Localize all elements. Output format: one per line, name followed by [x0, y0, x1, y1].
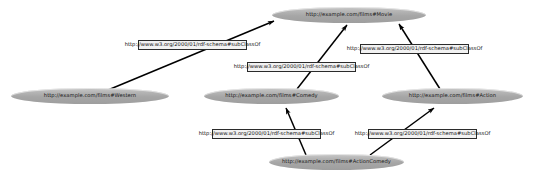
rdf-graph-diagram: http://example.com/films#Movie http://ex… — [0, 0, 534, 176]
edge-label-western-to-movie[interactable]: http://www.w3.org/2000/01/rdf-schema#sub… — [138, 40, 247, 50]
edge-comedy-to-movie — [297, 25, 347, 89]
edge-action-to-movie — [399, 24, 440, 89]
node-actioncomedy-label: http://example.com/films#ActionComedy — [282, 159, 391, 164]
edge-label-action-to-movie-text: http://www.w3.org/2000/01/rdf-schema#sub… — [347, 46, 483, 51]
edge-label-actioncomedy-to-comedy-text: http://www.w3.org/2000/01/rdf-schema#sub… — [199, 131, 335, 136]
node-comedy[interactable]: http://example.com/films#Comedy — [204, 88, 339, 104]
edge-label-actioncomedy-to-action-text: http://www.w3.org/2000/01/rdf-schema#sub… — [355, 131, 491, 136]
node-western[interactable]: http://example.com/films#Western — [11, 88, 169, 104]
edge-label-actioncomedy-to-comedy[interactable]: http://www.w3.org/2000/01/rdf-schema#sub… — [212, 129, 321, 139]
node-western-label: http://example.com/films#Western — [44, 93, 136, 98]
edge-label-western-to-movie-text: http://www.w3.org/2000/01/rdf-schema#sub… — [125, 42, 261, 47]
node-actioncomedy[interactable]: http://example.com/films#ActionComedy — [269, 154, 404, 170]
edge-western-to-movie — [108, 21, 274, 90]
edge-label-comedy-to-movie-text: http://www.w3.org/2000/01/rdf-schema#sub… — [234, 64, 370, 69]
node-movie-label: http://example.com/films#Movie — [306, 12, 392, 17]
edge-label-actioncomedy-to-action[interactable]: http://www.w3.org/2000/01/rdf-schema#sub… — [368, 129, 477, 139]
edge-label-comedy-to-movie[interactable]: http://www.w3.org/2000/01/rdf-schema#sub… — [247, 62, 356, 72]
edge-label-action-to-movie[interactable]: http://www.w3.org/2000/01/rdf-schema#sub… — [360, 44, 469, 54]
node-action-label: http://example.com/films#Action — [409, 93, 496, 98]
node-movie[interactable]: http://example.com/films#Movie — [272, 7, 426, 23]
node-action[interactable]: http://example.com/films#Action — [382, 88, 523, 104]
node-comedy-label: http://example.com/films#Comedy — [225, 93, 317, 98]
